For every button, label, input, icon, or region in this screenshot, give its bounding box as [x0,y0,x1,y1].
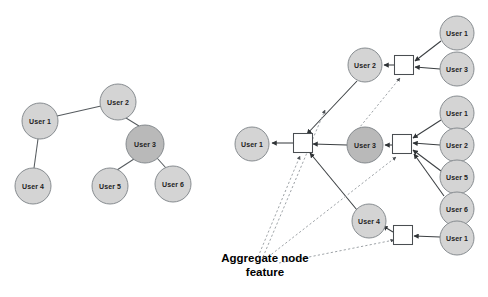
node-label: User 1 [446,30,468,37]
aggregate-box-c[interactable] [393,135,412,154]
box-shape [394,226,413,245]
node-left-user4[interactable]: User 4 [15,168,51,204]
node-label: User 1 [29,118,51,125]
node-label: User 2 [354,62,376,69]
node-right-col-user5[interactable]: User 5 [440,160,474,194]
box-shape [393,135,412,154]
aggregate-box-a[interactable] [395,56,414,75]
node-right-user4[interactable]: User 4 [352,204,386,238]
caption-line-2: feature [246,266,284,278]
box-shape [395,56,414,75]
node-left-user3[interactable]: User 3 [126,125,164,163]
aggregate-box-b[interactable] [294,134,313,153]
node-label: User 6 [162,181,184,188]
node-label: User 1 [446,110,468,117]
box-shape [294,134,313,153]
aggregate-box-d[interactable] [394,226,413,245]
node-left-user6[interactable]: User 6 [155,166,191,202]
node-label: User 5 [99,183,121,190]
node-label: User 2 [107,99,129,106]
node-right-user3[interactable]: User 3 [347,127,383,163]
caption-line-1: Aggregate node [221,252,309,264]
node-label: User 2 [446,142,468,149]
node-label: User 4 [22,183,44,190]
node-label: User 4 [358,218,380,225]
node-left-user2[interactable]: User 2 [100,84,136,120]
node-right-col-user2[interactable]: User 2 [440,128,474,162]
node-label: User 1 [241,141,263,148]
node-label: User 6 [446,206,468,213]
node-right-user2[interactable]: User 2 [348,48,382,82]
node-label: User 3 [354,142,376,149]
node-right-col-user1-top[interactable]: User 1 [440,16,474,50]
node-right-col-user1-bottom[interactable]: User 1 [440,221,474,255]
node-left-user5[interactable]: User 5 [92,168,128,204]
node-label: User 5 [446,174,468,181]
node-label: User 1 [446,235,468,242]
node-right-output-user1[interactable]: User 1 [235,127,269,161]
node-label: User 3 [134,141,156,148]
node-left-user1[interactable]: User 1 [22,103,58,139]
node-label: User 3 [446,66,468,73]
node-right-col-user1-mid[interactable]: User 1 [440,96,474,130]
node-right-col-user3[interactable]: User 3 [440,52,474,86]
figure-canvas: User 1 User 2 User 3 User 4 User 5 User … [0,0,488,297]
